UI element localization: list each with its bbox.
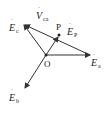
origin-point: [45, 54, 48, 57]
label-ea: E a ·: [90, 52, 101, 69]
svg-text:a: a: [98, 63, 101, 69]
label-o: O: [44, 59, 51, 69]
point-p: [58, 34, 61, 37]
svg-text:E: E: [8, 22, 15, 33]
svg-text:E: E: [66, 26, 73, 37]
svg-text:c: c: [16, 28, 19, 34]
label-eb: E b ·: [8, 87, 19, 104]
label-p: P: [56, 22, 61, 32]
svg-text:P: P: [74, 32, 78, 38]
svg-text:·: ·: [69, 21, 71, 27]
label-ep: E P ·: [66, 21, 78, 38]
svg-text:E: E: [90, 57, 97, 68]
svg-text:b: b: [16, 98, 19, 104]
phasor-diagram: E c · V ca · P E P · E a · O E b ·: [0, 0, 111, 115]
svg-text:·: ·: [93, 52, 95, 58]
svg-text:O: O: [44, 59, 51, 69]
svg-text:P: P: [56, 22, 61, 32]
svg-text:·: ·: [38, 5, 40, 11]
vector-ep: [46, 37, 58, 55]
label-vca: V ca ·: [36, 5, 49, 22]
svg-text:·: ·: [11, 17, 13, 23]
svg-text:·: ·: [11, 87, 13, 93]
svg-text:E: E: [8, 92, 15, 103]
vector-eb: [25, 55, 46, 88]
svg-text:ca: ca: [43, 16, 49, 22]
label-ec: E c ·: [8, 17, 19, 34]
